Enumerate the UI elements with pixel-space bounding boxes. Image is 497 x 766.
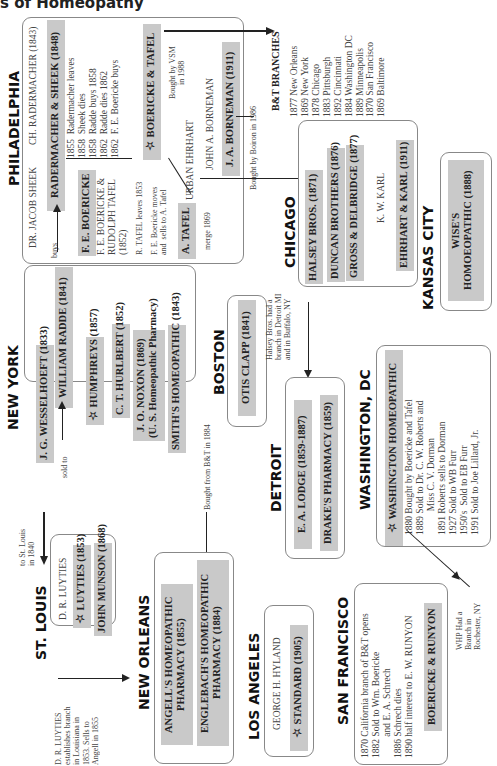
wises-box: WISE'S HOMOEOPATHIC (1888)	[448, 160, 484, 301]
luyties-branch-note: D. R. LUYTIES establishes branch in Loui…	[54, 690, 100, 765]
whp-box: ☆ WASHINGTON HOMEOPATHIC	[385, 350, 403, 546]
ja-borneman-box: J. A. BORNEMAN (1911)	[222, 42, 240, 176]
merge-label: merge 1869	[203, 205, 212, 250]
philadelphia-timeline: 1855 Radermacher leaves 1858 Sheek dies …	[66, 40, 121, 158]
smiths-box: SMITH'S HOMEOPATHIC (1843)	[168, 325, 186, 453]
sold-to-line	[62, 408, 63, 440]
bought-vsm-label: Bought by VSM in 1988	[168, 40, 186, 105]
to-st-louis-note: to St. Louis in 1840	[18, 516, 36, 566]
kw-karl-label: K. W. KARL	[376, 173, 387, 223]
st-louis-arrow-line	[43, 512, 45, 558]
halsey-box: HALSEY BROS. (1871)	[305, 170, 323, 284]
luyties-box: ☆ LUYTIES (1853)	[73, 545, 91, 628]
rademacher-label: CH. RADERMACHER (1843)	[28, 20, 39, 145]
st-louis-arrowhead	[40, 556, 48, 565]
sold-to-label: sold to	[60, 448, 69, 478]
city-label-washington: WASHINGTON, DC	[357, 380, 373, 510]
standard-box: ☆ STANDARD (1905)	[290, 625, 308, 751]
washington-timeline: 1880 Bought by Boericke and Tafel 1889 S…	[404, 370, 480, 535]
tafel-leaves-label: R. TAFEL leaves 1853	[135, 165, 144, 255]
lodge-box: E. A. LODGE (1859-1887)	[294, 400, 312, 549]
john-borneman-label: JOHN A. BORNEMAN	[205, 60, 216, 170]
otis-clapp-box: OTIS CLAPP (1841)	[238, 300, 256, 416]
city-label-detroit: DETROIT	[268, 452, 284, 512]
city-label-new-york: NEW YORK	[5, 345, 21, 430]
boericke-tafel-1852-label: F. E. BOERICKE & RUDOLPH TAFEL (1852)	[96, 170, 129, 255]
englebachs-box: ENGLEBACH'S HOMEOPATHIC PHARMACY (1884)	[197, 560, 229, 746]
city-label-chicago: CHICAGO	[282, 188, 298, 268]
william-radde-box: WILLIAM RADDE (1841)	[55, 267, 73, 408]
drakes-box: DRAKE'S PHARMACY (1859)	[320, 395, 338, 551]
buys-arrowhead	[53, 204, 61, 212]
rademacher-sheek-box: RADERMACHER & SHEEK (1848)	[47, 20, 65, 211]
luyties-arrow-line	[58, 678, 124, 679]
boericke-runyon-box: BOERICKE & RUNYON	[424, 603, 442, 731]
city-label-boston: BOSTON	[211, 330, 227, 395]
luyties-arrowhead	[122, 674, 130, 682]
boericke-moves-label: F. E. Boericke moves and sells to A. Taf…	[150, 165, 168, 255]
page-title: s of Homeopathy	[0, 0, 144, 12]
urban-ehrhart-label: URBAN EHRHART	[185, 110, 196, 200]
city-label-philadelphia: PHILADELPHIA	[6, 76, 22, 186]
hyland-label: GEORGE H. HYLAND	[272, 630, 283, 730]
bt-branches-list: 1877 New Orleans 1869 New York 1878 Chic…	[289, 32, 387, 117]
angells-box: ANGELL'S HOMEOPATHIC PHARMACY (1855)	[161, 584, 193, 745]
city-label-new-orleans: NEW ORLEANS	[136, 605, 152, 710]
branches-arrow-line	[164, 30, 270, 32]
halsey-bros-note: Halsey Bros. had a branch in Detroit MI …	[265, 290, 293, 360]
gross-box: GROSS & DELBRIDGE (1877)	[346, 145, 364, 281]
boericke-tafel-box: ☆ BOERICKE & TAFEL	[143, 24, 161, 160]
san-francisco-timeline: 1870 California branch of B&T opens 1882…	[360, 598, 415, 758]
duncan-box: DUNCAN BROTHERS (1876)	[327, 148, 345, 282]
halsey-arrow-line	[308, 302, 309, 372]
fe-boericke-box: F. E. BOERICKE	[78, 170, 96, 256]
jacob-sheek-label: DR. JACOB SHEEK	[28, 148, 39, 248]
humphreys-box: ☆ HUMPHREYS (1857)	[86, 337, 104, 425]
city-label-los-angeles: LOS ANGELES	[246, 640, 262, 740]
bought-boiron-label: Bought by Boiron in 1986	[249, 80, 258, 190]
city-label-st-louis: ST. LOUIS	[33, 580, 49, 660]
john-munson-box: JOHN MUNSON (1868)	[94, 543, 112, 636]
noxon-box: J. O. NOXON (1869) (U. S. Homeopathic Ph…	[133, 330, 165, 441]
bt-branches-heading: B&T BRANCHES	[270, 36, 282, 111]
city-label-kansas-city: KANSAS CITY	[420, 200, 436, 310]
buys-arrow-line	[57, 212, 58, 252]
dr-luyties-label: D. R. LUYTIES	[58, 550, 69, 620]
rochester-note: WHP Had a Branch in Rochester, NY	[455, 580, 483, 650]
timeline-bracket	[66, 158, 132, 159]
nola-arrow-line	[206, 512, 207, 554]
hurlbert-box: C. T. HURLBERT (1852)	[112, 324, 130, 418]
ehrhart-karl-box: EHRHART & KARL (1911)	[396, 140, 414, 271]
sold-to-arrowhead	[58, 401, 66, 409]
bought-from-bt-label: Bought from B&T in 1884	[203, 410, 212, 510]
a-tafel-box: A. TAFEL	[178, 203, 196, 259]
wesselhoeft-box: J. G. WESSELHOEFT (1833)	[36, 345, 54, 463]
city-label-san-francisco: SAN FRANCISCO	[335, 610, 351, 725]
